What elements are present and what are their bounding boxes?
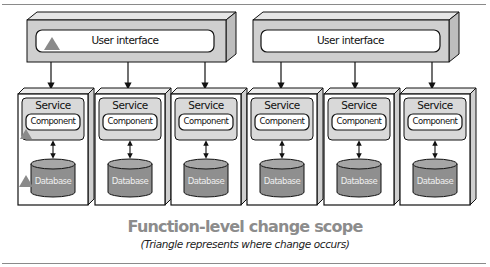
database-label: Database [260,176,304,186]
ui-to-service-arrows [51,62,432,86]
database-label: Database [108,176,152,186]
service-label: Service [247,99,317,111]
database-label: Database [31,176,75,186]
component-label: Component [255,116,309,126]
database-label: Database [184,176,228,186]
component-label: Component [332,116,386,126]
service-label: Service [95,99,165,111]
database-label: Database [413,176,457,186]
service-label: Service [324,99,394,111]
service-label: Service [18,99,88,111]
component-label: Component [103,116,157,126]
diagram-subtitle: (Triangle represents where change occurs… [0,238,490,250]
user-interface-label: User interface [261,34,440,46]
component-label: Component [408,116,462,126]
service-label: Service [171,99,241,111]
diagram-title: Function-level change scope [0,217,490,236]
service-label: Service [400,99,470,111]
component-label: Component [179,116,233,126]
component-label: Component [26,116,80,126]
user-interface-label: User interface [36,34,214,46]
database-label: Database [337,176,381,186]
